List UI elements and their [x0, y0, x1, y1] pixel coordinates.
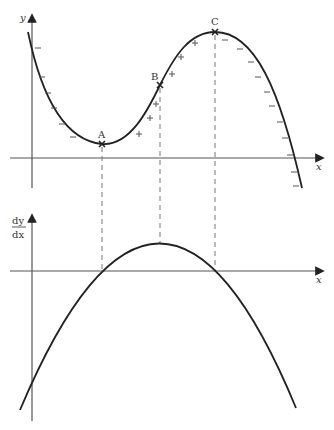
dy-label: dy: [12, 215, 24, 226]
bottom-graph: dy dx x: [10, 215, 322, 421]
derivative-curve: [20, 243, 296, 410]
derivative-axis-label: dy dx: [12, 215, 26, 240]
dx-label: dx: [12, 229, 24, 240]
point-a-label: A: [97, 129, 106, 140]
top-x-axis-label: x: [316, 161, 322, 172]
bottom-x-axis-label: x: [316, 274, 322, 285]
top-y-axis-label: y: [19, 12, 26, 23]
diagram-canvas: y x A B C: [0, 0, 334, 430]
cubic-curve: [28, 32, 302, 188]
point-c-label: C: [211, 16, 219, 27]
point-b-label: B: [151, 71, 158, 82]
top-graph: y x A B C: [10, 12, 322, 188]
dashed-guides: [102, 35, 215, 271]
point-b: B: [151, 71, 163, 88]
plus-signs: [136, 40, 198, 137]
